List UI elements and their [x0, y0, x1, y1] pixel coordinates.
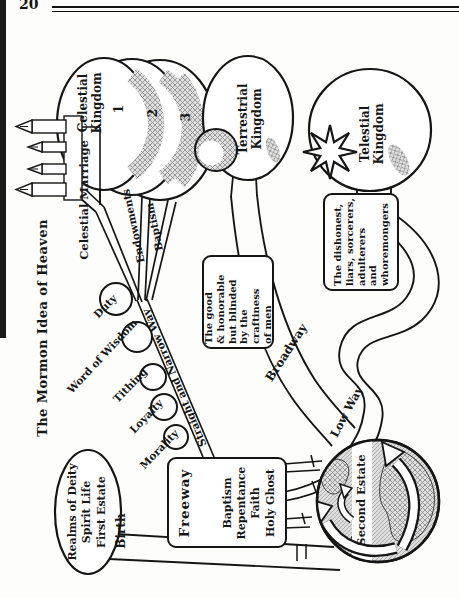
terrestrial-kingdom-label: Terrestrial Kingdom — [237, 84, 265, 155]
moon-icon — [195, 129, 237, 171]
good-honorable-box: The good & honorable but blinded by the … — [202, 255, 274, 349]
dishonest-box: The dishonest, liars, sorcerers, adulter… — [323, 193, 399, 291]
temple-icon — [16, 116, 82, 200]
dishonest-text: The dishonest, liars, sorcerers, adulter… — [332, 198, 391, 286]
realms-ellipse-label: Realms of Deity Spirit Life First Estate — [66, 463, 109, 560]
telestial-kingdom-label: Telestial Kingdom — [359, 103, 387, 164]
second-estate-label: Second Estate — [355, 454, 368, 545]
diagram-title: The Mormon Idea of Heaven — [36, 219, 51, 437]
birth-label: Birth — [115, 513, 129, 548]
book-page: 20 — [0, 0, 459, 598]
freeway-box: Freeway Baptism Repentance Faith Holy Gh… — [167, 457, 287, 548]
good-honorable-text: The good & honorable but blinded by the … — [203, 260, 274, 344]
star-icon — [303, 125, 357, 179]
celestial-circle-2-number: 2 — [147, 109, 161, 117]
freeway-heading: Freeway — [177, 462, 193, 544]
globe-icon — [312, 440, 439, 562]
celestial-marriage-label: Celestial Marriage — [78, 140, 91, 260]
freeway-items: Baptism Repentance Faith Holy Ghost — [220, 462, 277, 544]
celestial-circle-3-number: 3 — [180, 113, 194, 121]
celestial-circle-1-number: 1 — [113, 105, 127, 113]
celestial-kingdom-label: Celestial Kingdom — [77, 72, 105, 133]
